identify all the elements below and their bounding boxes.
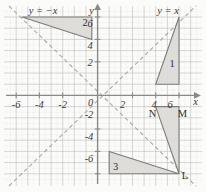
point-l-label: L — [182, 170, 188, 181]
x-axis-label: x — [192, 96, 198, 107]
x-tick-label-6: 6 — [167, 99, 173, 110]
y-tick-label-4: 4 — [87, 40, 93, 51]
y-tick-label-6: 6 — [87, 18, 93, 29]
point-m-label: M — [178, 108, 188, 119]
coordinate-plane-svg: -6 -4 -2 2 4 6 6 4 2 -2 -4 -6 0 x y y = … — [0, 0, 206, 192]
y-tick-label-2: 2 — [87, 57, 93, 68]
x-tick-label--2: -2 — [58, 99, 67, 110]
triangle-2-label: 2 — [82, 17, 87, 28]
triangle-3-label: 3 — [113, 161, 118, 172]
y-axis-label: y — [88, 5, 94, 16]
triangle-1-label: 1 — [169, 58, 174, 69]
point-n-label: N — [149, 108, 157, 119]
origin-label: 0 — [88, 97, 94, 108]
y-tick-label--6: -6 — [85, 153, 94, 164]
x-tick-label-2: 2 — [120, 99, 126, 110]
x-tick-label--4: -4 — [35, 99, 44, 110]
y-tick-label--2: -2 — [85, 109, 94, 120]
coordinate-plane-figure: -6 -4 -2 2 4 6 6 4 2 -2 -4 -6 0 x y y = … — [0, 0, 206, 192]
label-y-equals-negative-x: y = −x — [28, 5, 58, 16]
label-y-equals-x: y = x — [156, 5, 179, 16]
y-tick-label--4: -4 — [85, 131, 94, 142]
x-tick-label--6: -6 — [12, 99, 21, 110]
